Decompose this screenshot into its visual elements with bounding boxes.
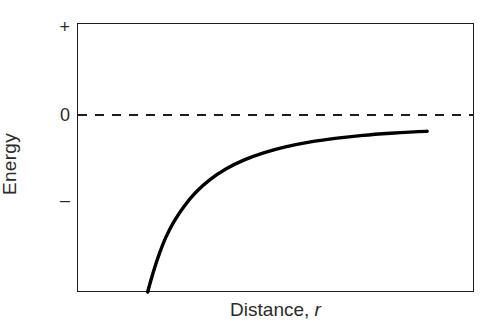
y-tick-label-plus: + bbox=[44, 18, 70, 36]
x-axis-label: Distance, r bbox=[77, 298, 474, 322]
x-axis-label-text: Distance, bbox=[230, 299, 314, 320]
plot-frame bbox=[77, 23, 474, 292]
zero-tick-mark bbox=[77, 115, 84, 116]
y-axis-label: Energy bbox=[0, 104, 24, 224]
x-axis-label-variable: r bbox=[315, 299, 321, 320]
energy-vs-distance-chart: Energy + 0 – Distance, r bbox=[0, 0, 497, 328]
y-tick-label-minus: – bbox=[44, 191, 70, 209]
y-tick-label-zero: 0 bbox=[44, 106, 70, 124]
